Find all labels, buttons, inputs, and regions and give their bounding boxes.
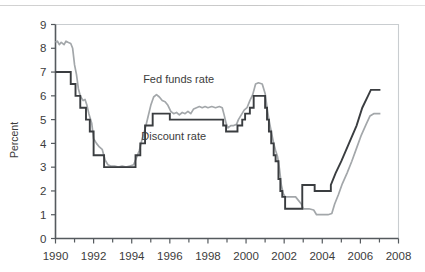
x-tick-label: 2006: [348, 250, 374, 262]
y-tick-label: 3: [40, 161, 46, 173]
x-tick-label: 1992: [81, 250, 107, 262]
y-tick-label: 6: [40, 90, 46, 102]
y-tick-label: 9: [40, 19, 46, 31]
x-tick-label: 2000: [233, 250, 259, 262]
y-tick-label: 0: [40, 233, 46, 245]
y-axis-title: Percent: [8, 122, 20, 158]
y-tick-label: 7: [40, 66, 46, 78]
y-axis-tick-labels: 0123456789: [40, 19, 47, 245]
x-tick-label: 1998: [195, 250, 221, 262]
x-tick-label: 2002: [271, 250, 297, 262]
x-tick-label: 2004: [309, 250, 335, 262]
y-tick-label: 4: [40, 138, 47, 150]
series-lines: [56, 41, 381, 215]
y-tick-label: 1: [40, 209, 46, 221]
x-tick-label: 1990: [43, 250, 69, 262]
y-tick-label: 8: [40, 42, 46, 54]
fed-funds-vs-discount-rate-chart: 1990199219941996199820002002200420062008…: [0, 0, 425, 272]
series-line-discount-rate: [56, 72, 381, 209]
x-tick-label: 1994: [119, 250, 145, 262]
annotation-discount-rate: Discount rate: [141, 130, 206, 142]
x-tick-label: 2008: [386, 250, 412, 262]
y-tick-label: 5: [40, 114, 46, 126]
figure-container: 1990199219941996199820002002200420062008…: [0, 0, 425, 272]
x-axis-tick-labels: 1990199219941996199820002002200420062008: [43, 250, 412, 262]
x-tick-label: 1996: [157, 250, 183, 262]
y-tick-label: 2: [40, 185, 46, 197]
annotation-fed-funds-rate: Fed funds rate: [143, 73, 214, 85]
